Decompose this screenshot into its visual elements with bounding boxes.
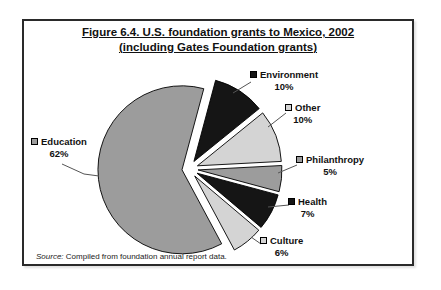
pie-callout-education: Education62% (31, 136, 87, 159)
pie-callout-culture: Culture6% (260, 235, 303, 258)
leader-line-environment (233, 82, 251, 93)
pie-callout-philanthropy: Philanthropy5% (296, 154, 364, 177)
legend-label-other: Other (295, 102, 320, 113)
legend-marker-culture-icon (260, 237, 267, 244)
leader-line-other (268, 113, 286, 127)
legend-marker-education-icon (31, 138, 38, 145)
legend-label-health: Health (298, 196, 327, 207)
legend-marker-philanthropy-icon (296, 156, 303, 163)
legend-marker-other-icon (285, 104, 292, 111)
legend-percent-other: 10% (285, 114, 320, 125)
legend-percent-environment: 10% (250, 81, 318, 92)
figure-canvas: Figure 6.4. U.S. foundation grants to Me… (0, 0, 441, 290)
legend-marker-health-icon (288, 198, 295, 205)
source-note: Source: Compiled from foundation annual … (36, 252, 227, 261)
legend-label-philanthropy: Philanthropy (306, 154, 364, 165)
pie-callout-environment: Environment10% (250, 69, 318, 92)
legend-percent-health: 7% (288, 208, 327, 219)
leader-line-education (62, 164, 99, 176)
source-text: Compiled from foundation annual report d… (66, 252, 227, 261)
source-prefix: Source: (36, 252, 64, 261)
legend-label-environment: Environment (260, 69, 318, 80)
pie-callout-health: Health7% (288, 196, 327, 219)
legend-percent-education: 62% (31, 148, 87, 159)
legend-label-culture: Culture (270, 235, 303, 246)
legend-percent-culture: 6% (260, 247, 303, 258)
pie-callout-other: Other10% (285, 102, 320, 125)
legend-label-education: Education (41, 136, 87, 147)
legend-marker-environment-icon (250, 71, 257, 78)
legend-percent-philanthropy: 5% (296, 166, 364, 177)
